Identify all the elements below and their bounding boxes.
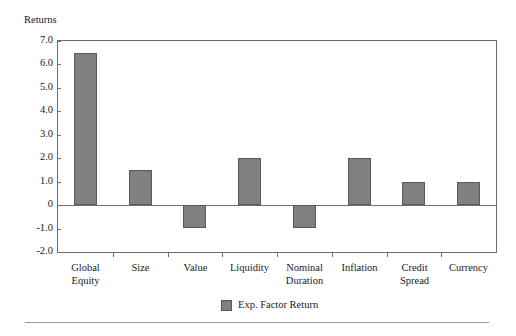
chart-figure: Returns 7.06.05.04.03.02.01.00-1.0-2.0 G… <box>0 0 516 336</box>
legend-swatch-exp-factor-return <box>221 300 232 311</box>
x-axis-category-label: Size <box>113 261 168 274</box>
zero-baseline <box>58 205 496 206</box>
x-axis-category-label: Liquidity <box>222 261 277 274</box>
y-tick-mark <box>57 252 61 253</box>
x-axis-category-label: CreditSpread <box>387 261 442 287</box>
x-axis-category-label: Inflation <box>332 261 387 274</box>
x-tick-mark <box>168 253 169 257</box>
bar <box>402 182 425 205</box>
x-axis-category-label: NominalDuration <box>277 261 332 287</box>
legend-label-exp-factor-return: Exp. Factor Return <box>238 300 318 311</box>
bar <box>293 205 316 228</box>
bar <box>238 158 261 205</box>
y-axis-title: Returns <box>24 13 57 26</box>
bar <box>183 205 206 228</box>
x-tick-mark <box>441 253 442 257</box>
bar <box>457 182 480 205</box>
bottom-divider-rule <box>25 322 489 323</box>
x-tick-mark <box>113 253 114 257</box>
bar <box>129 170 152 205</box>
x-axis-category-label: Currency <box>441 261 496 274</box>
chart-legend: Exp. Factor Return <box>221 300 318 311</box>
x-tick-mark <box>277 253 278 257</box>
bar <box>74 53 97 205</box>
x-tick-mark <box>387 253 388 257</box>
plot-surface <box>58 41 496 252</box>
bar <box>348 158 371 205</box>
x-tick-mark <box>332 253 333 257</box>
x-tick-mark <box>222 253 223 257</box>
x-axis-category-label: GlobalEquity <box>58 261 113 287</box>
x-axis-category-label: Value <box>168 261 223 274</box>
